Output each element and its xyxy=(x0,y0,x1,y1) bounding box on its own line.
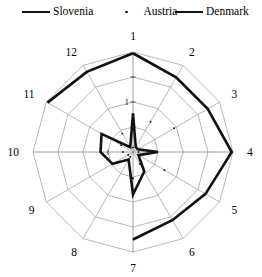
radial-tick-label-1: 1 xyxy=(125,97,130,107)
legend-dot-marker-icon xyxy=(125,11,128,14)
spoke-label-7: 7 xyxy=(130,262,136,274)
grid-spoke-9 xyxy=(46,152,133,202)
spoke-label-2: 2 xyxy=(189,46,195,58)
series-austria-point-1 xyxy=(132,147,134,149)
spoke-label-12: 12 xyxy=(66,46,78,58)
series-austria-point-2 xyxy=(150,121,152,123)
legend-item-slovenia[interactable]: Slovenia xyxy=(22,6,93,18)
spoke-label-11: 11 xyxy=(23,88,34,100)
grid-spoke-11 xyxy=(46,102,133,152)
legend-item-label: Denmark xyxy=(206,6,249,18)
spoke-label-10: 10 xyxy=(8,146,20,158)
spoke-label-3: 3 xyxy=(231,88,237,100)
grid-spoke-8 xyxy=(83,152,133,239)
series-austria-point-8 xyxy=(129,156,131,158)
series-austria-point-6 xyxy=(139,163,141,165)
series-austria-point-11 xyxy=(120,144,122,146)
series-austria-point-4 xyxy=(138,151,140,153)
series-austria-point-10 xyxy=(122,151,124,153)
radar-plot-area: 1123456789101112 xyxy=(0,22,262,277)
grid-spoke-12 xyxy=(83,65,133,152)
legend-item-austria[interactable]: Austria xyxy=(112,6,177,18)
series-denmark-line xyxy=(47,53,231,239)
radar-chart: 1123456789101112 xyxy=(0,22,262,277)
spoke-label-1: 1 xyxy=(130,30,136,42)
spoke-label-9: 9 xyxy=(29,204,35,216)
legend-line-marker-icon xyxy=(175,11,203,13)
series-austria-point-12 xyxy=(121,133,123,135)
series-austria-point-5 xyxy=(163,169,165,171)
spoke-label-6: 6 xyxy=(189,246,195,258)
spoke-label-5: 5 xyxy=(231,204,237,216)
series-austria-point-7 xyxy=(132,177,134,179)
legend-item-label: Slovenia xyxy=(53,6,93,18)
series-austria-point-3 xyxy=(173,127,175,129)
legend-item-denmark[interactable]: Denmark xyxy=(175,6,249,18)
legend-line-marker-icon xyxy=(22,11,50,13)
series-austria-point-9 xyxy=(127,154,129,156)
grid-spoke-6 xyxy=(133,152,183,239)
spoke-label-4: 4 xyxy=(247,146,253,158)
legend-item-label: Austria xyxy=(144,6,178,18)
spoke-label-8: 8 xyxy=(71,246,77,258)
